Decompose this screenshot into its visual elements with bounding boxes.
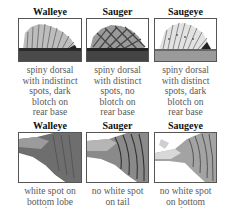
walleye-tail-caption: white spot on bottom lobe of tail <box>18 186 82 208</box>
walleye-tail-panel: Walleye white spot on bottom lobe of tai… <box>18 120 82 208</box>
panel-title: Walleye <box>18 120 82 131</box>
panel-title: Saugeye <box>154 120 217 131</box>
caption-line: of tail <box>154 207 217 208</box>
caption-line: no white spot <box>86 186 149 197</box>
walleye-tail-icon <box>19 133 81 182</box>
caption-line: spiny dorsal <box>86 65 149 76</box>
caption-line: spots, dark <box>154 86 217 97</box>
sauger-tail-icon <box>87 133 148 182</box>
saugeye-dorsal-panel: Saugeye spiny dorsal with distinct spots… <box>154 6 217 118</box>
saugeye-tail-caption: no white spot on bottom of tail <box>154 186 217 208</box>
sauger-dorsal-panel: Sauger spiny dorsal with distinct spots,… <box>86 6 149 118</box>
sauger-tail-caption: no white spot on tail <box>86 186 149 207</box>
caption-line: no white spot <box>154 186 217 197</box>
panel-title: Walleye <box>18 6 82 17</box>
caption-line: spiny dorsal <box>18 65 82 76</box>
sauger-dorsal-fin-icon <box>87 19 148 61</box>
saugeye-tail-image <box>154 132 217 183</box>
saugeye-tail-panel: Saugeye no white spot on bottom of tail <box>154 120 217 208</box>
saugeye-tail-icon <box>155 133 216 182</box>
sauger-tail-panel: Sauger no white spot on tail <box>86 120 149 207</box>
panel-title: Saugeye <box>154 6 217 17</box>
walleye-dorsal-fin-image <box>18 18 82 62</box>
walleye-dorsal-caption: spiny dorsal with indistinct spots, dark… <box>18 65 82 118</box>
caption-line: on tail <box>86 197 149 208</box>
caption-line: white spot on <box>18 186 82 197</box>
panel-title: Sauger <box>86 6 149 17</box>
caption-line: rear base <box>18 107 82 118</box>
saugeye-dorsal-caption: spiny dorsal with distinct spots, dark b… <box>154 65 217 118</box>
caption-line: rear base <box>154 107 217 118</box>
walleye-dorsal-panel: Walleye spiny dorsal with indistinct spo… <box>18 6 82 118</box>
saugeye-dorsal-fin-icon <box>155 19 216 61</box>
caption-line: spiny dorsal <box>154 65 217 76</box>
walleye-tail-image <box>18 132 82 183</box>
sauger-dorsal-caption: spiny dorsal with distinct spots, no blo… <box>86 65 149 118</box>
caption-line: of tail <box>18 207 82 208</box>
panel-title: Sauger <box>86 120 149 131</box>
saugeye-dorsal-fin-image <box>154 18 217 62</box>
walleye-dorsal-fin-icon <box>19 19 81 61</box>
caption-line: rear base <box>86 107 149 118</box>
sauger-dorsal-fin-image <box>86 18 149 62</box>
caption-line: spots, no <box>86 86 149 97</box>
caption-line: spots, dark <box>18 86 82 97</box>
sauger-tail-image <box>86 132 149 183</box>
